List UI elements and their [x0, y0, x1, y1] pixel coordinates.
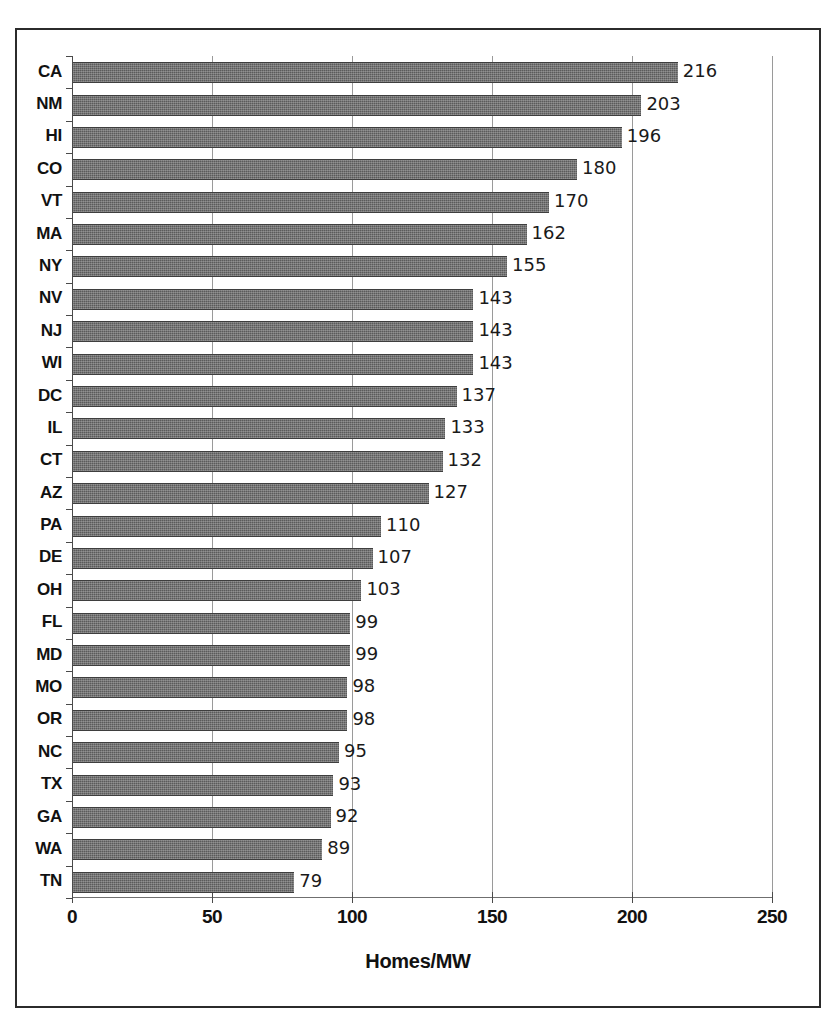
- bar-row: MO98: [0, 671, 836, 702]
- category-label-md: MD: [0, 646, 62, 663]
- category-label-fl: FL: [0, 613, 62, 630]
- category-label-co: CO: [0, 160, 62, 177]
- bar-nv[interactable]: [73, 289, 473, 310]
- bar-de[interactable]: [73, 548, 373, 569]
- bar-value-fl: 99: [355, 612, 378, 632]
- bar-nj[interactable]: [73, 321, 473, 342]
- bar-row: TX93: [0, 768, 836, 799]
- category-label-nj: NJ: [0, 322, 62, 339]
- y-tick: [66, 898, 73, 899]
- x-tick-label-150: 150: [477, 906, 507, 928]
- category-label-tx: TX: [0, 775, 62, 792]
- bar-row: HI196: [0, 121, 836, 152]
- category-label-ma: MA: [0, 225, 62, 242]
- bar-value-co: 180: [582, 158, 616, 178]
- bar-hi[interactable]: [73, 127, 622, 148]
- category-label-wa: WA: [0, 840, 62, 857]
- bar-value-ca: 216: [683, 61, 717, 81]
- x-axis-title: Homes/MW: [0, 950, 836, 973]
- category-label-nv: NV: [0, 289, 62, 306]
- bar-value-az: 127: [434, 482, 468, 502]
- bar-row: NC95: [0, 736, 836, 767]
- x-tick-label-200: 200: [617, 906, 647, 928]
- bar-row: MA162: [0, 218, 836, 249]
- bar-ct[interactable]: [73, 451, 443, 472]
- bar-value-ny: 155: [512, 255, 546, 275]
- bar-value-nm: 203: [646, 94, 680, 114]
- bar-value-hi: 196: [627, 126, 661, 146]
- bar-pa[interactable]: [73, 516, 381, 537]
- bar-ma[interactable]: [73, 224, 527, 245]
- bar-ga[interactable]: [73, 807, 331, 828]
- bar-ny[interactable]: [73, 256, 507, 277]
- bar-nm[interactable]: [73, 95, 641, 116]
- category-label-hi: HI: [0, 127, 62, 144]
- bar-md[interactable]: [73, 645, 350, 666]
- x-tick-label-0: 0: [67, 906, 77, 928]
- category-label-tn: TN: [0, 872, 62, 889]
- bar-value-vt: 170: [554, 191, 588, 211]
- bar-co[interactable]: [73, 159, 577, 180]
- category-label-mo: MO: [0, 678, 62, 695]
- category-label-pa: PA: [0, 516, 62, 533]
- bar-mo[interactable]: [73, 677, 347, 698]
- bar-nc[interactable]: [73, 742, 339, 763]
- bar-value-pa: 110: [386, 515, 420, 535]
- bar-row: WI143: [0, 347, 836, 378]
- x-axis-line: [72, 897, 773, 898]
- bar-value-ct: 132: [448, 450, 482, 470]
- bar-value-tx: 93: [338, 774, 361, 794]
- bar-value-il: 133: [450, 417, 484, 437]
- bar-value-nv: 143: [478, 288, 512, 308]
- bar-value-or: 98: [352, 709, 375, 729]
- category-label-de: DE: [0, 548, 62, 565]
- bar-tn[interactable]: [73, 872, 294, 893]
- bar-row: NM203: [0, 88, 836, 119]
- bar-az[interactable]: [73, 483, 429, 504]
- bar-row: CA216: [0, 56, 836, 87]
- bar-row: WA89: [0, 833, 836, 864]
- x-tick-label-100: 100: [337, 906, 367, 928]
- bar-vt[interactable]: [73, 192, 549, 213]
- category-label-oh: OH: [0, 581, 62, 598]
- bar-row: TN79: [0, 866, 836, 897]
- category-label-vt: VT: [0, 192, 62, 209]
- bar-oh[interactable]: [73, 580, 361, 601]
- bar-value-wi: 143: [478, 353, 512, 373]
- category-label-ga: GA: [0, 808, 62, 825]
- bar-row: OH103: [0, 574, 836, 605]
- bar-row: NY155: [0, 250, 836, 281]
- category-label-ct: CT: [0, 451, 62, 468]
- bar-wi[interactable]: [73, 354, 473, 375]
- bar-row: AZ127: [0, 477, 836, 508]
- category-label-dc: DC: [0, 387, 62, 404]
- category-label-ca: CA: [0, 63, 62, 80]
- bar-row: NV143: [0, 283, 836, 314]
- bar-row: GA92: [0, 801, 836, 832]
- bar-row: NJ143: [0, 315, 836, 346]
- bar-wa[interactable]: [73, 839, 322, 860]
- bar-dc[interactable]: [73, 386, 457, 407]
- category-label-nm: NM: [0, 95, 62, 112]
- bar-fl[interactable]: [73, 613, 350, 634]
- x-tick-label-50: 50: [202, 906, 222, 928]
- bar-value-de: 107: [378, 547, 412, 567]
- category-label-az: AZ: [0, 484, 62, 501]
- bar-row: OR98: [0, 704, 836, 735]
- bar-value-nc: 95: [344, 741, 367, 761]
- category-label-ny: NY: [0, 257, 62, 274]
- category-label-or: OR: [0, 710, 62, 727]
- bar-value-ga: 92: [336, 806, 359, 826]
- bar-or[interactable]: [73, 710, 347, 731]
- bar-row: FL99: [0, 607, 836, 638]
- x-tick-label-250: 250: [757, 906, 787, 928]
- bar-row: CT132: [0, 445, 836, 476]
- category-label-nc: NC: [0, 743, 62, 760]
- bar-il[interactable]: [73, 418, 445, 439]
- bar-tx[interactable]: [73, 775, 333, 796]
- bar-value-ma: 162: [532, 223, 566, 243]
- bar-ca[interactable]: [73, 62, 678, 83]
- bar-value-mo: 98: [352, 676, 375, 696]
- bar-value-wa: 89: [327, 838, 350, 858]
- bar-row: IL133: [0, 412, 836, 443]
